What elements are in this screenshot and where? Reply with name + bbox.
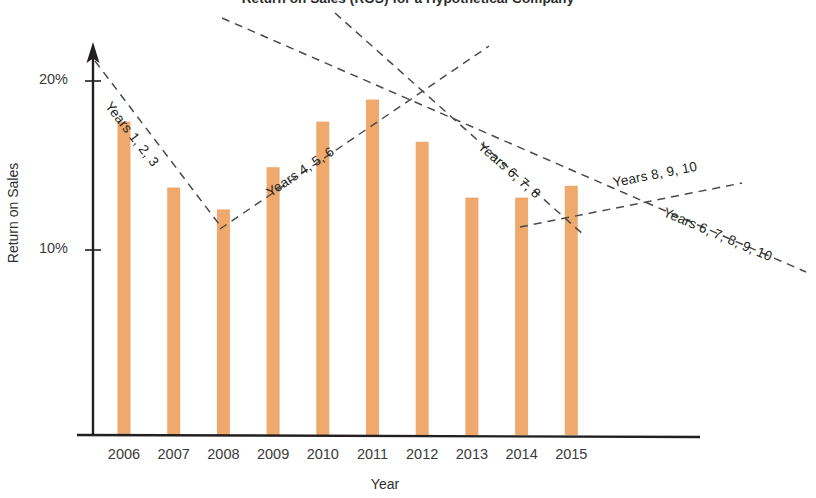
chart-container: Return on Sales (ROS) for a Hypothetical… <box>0 0 816 498</box>
trendline <box>95 61 222 228</box>
bar <box>465 198 478 435</box>
bar <box>118 122 131 435</box>
x-axis-title: Year <box>305 476 465 492</box>
x-tick-label: 2015 <box>540 446 602 462</box>
chart-canvas <box>0 0 816 498</box>
bar <box>515 198 528 435</box>
y-axis-title: Return on Sales <box>5 153 21 273</box>
trendline <box>220 46 489 229</box>
bar <box>167 188 180 436</box>
bars-group <box>118 100 578 435</box>
y-tick-label-20: 20% <box>6 71 68 87</box>
bar <box>267 167 280 435</box>
trendline <box>520 183 742 227</box>
bar <box>416 142 429 435</box>
bar <box>366 100 379 435</box>
bar <box>565 186 578 435</box>
x-axis-line <box>77 435 700 437</box>
bar <box>217 209 230 435</box>
